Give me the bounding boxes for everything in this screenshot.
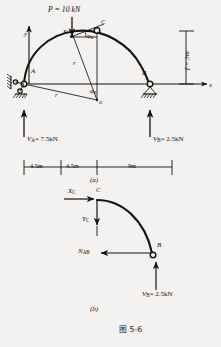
load-p-label: P = 10 kN	[48, 6, 80, 14]
figure-caption: 图 5-6	[119, 326, 142, 334]
dimension-chain	[24, 160, 172, 175]
dimension-label-2: 4.5m	[66, 163, 79, 169]
reaction-va-value: = 7.5kN	[35, 135, 58, 143]
rise-label: f = 3m	[184, 51, 191, 70]
fbd-point-b-label: B	[157, 242, 161, 249]
fbd-xc-sub: C	[72, 190, 75, 195]
center-o-marker	[96, 99, 98, 101]
center-angle-sub: K	[93, 90, 96, 95]
point-b-label: B	[142, 70, 146, 77]
point-a-label: A	[31, 68, 35, 75]
radius-label-lower: r	[55, 92, 58, 99]
fbd-arch-segment	[97, 200, 152, 253]
dimension-label-3: 9m	[128, 163, 136, 169]
panel-a-label: (a)	[90, 177, 98, 184]
fbd-point-c-label: C	[96, 187, 101, 194]
tangent-angle-sub: K	[90, 35, 93, 40]
panel-b-label: (b)	[90, 306, 98, 313]
fbd-nab-sub: AB	[83, 250, 90, 255]
hinge-c-marker	[94, 28, 100, 34]
radius-label-upper: r	[73, 60, 76, 67]
panel-b-diagram	[64, 199, 156, 290]
node-k-marker	[70, 35, 73, 38]
point-c-label: C	[101, 19, 106, 26]
fbd-hinge-b-marker	[150, 252, 156, 258]
dimension-label-1: 4.5m	[30, 163, 43, 169]
y-axis-label: y	[24, 31, 27, 38]
panel-a-diagram	[7, 17, 207, 175]
fbd-vb-value: = 2.5kN	[150, 290, 173, 298]
x-axis-label: x	[209, 82, 212, 89]
center-o-label: o	[99, 99, 102, 105]
fbd-yc-sub: C	[86, 218, 89, 223]
reaction-vb-value: = 2.5kN	[161, 135, 184, 143]
point-k-label: K	[63, 29, 68, 36]
